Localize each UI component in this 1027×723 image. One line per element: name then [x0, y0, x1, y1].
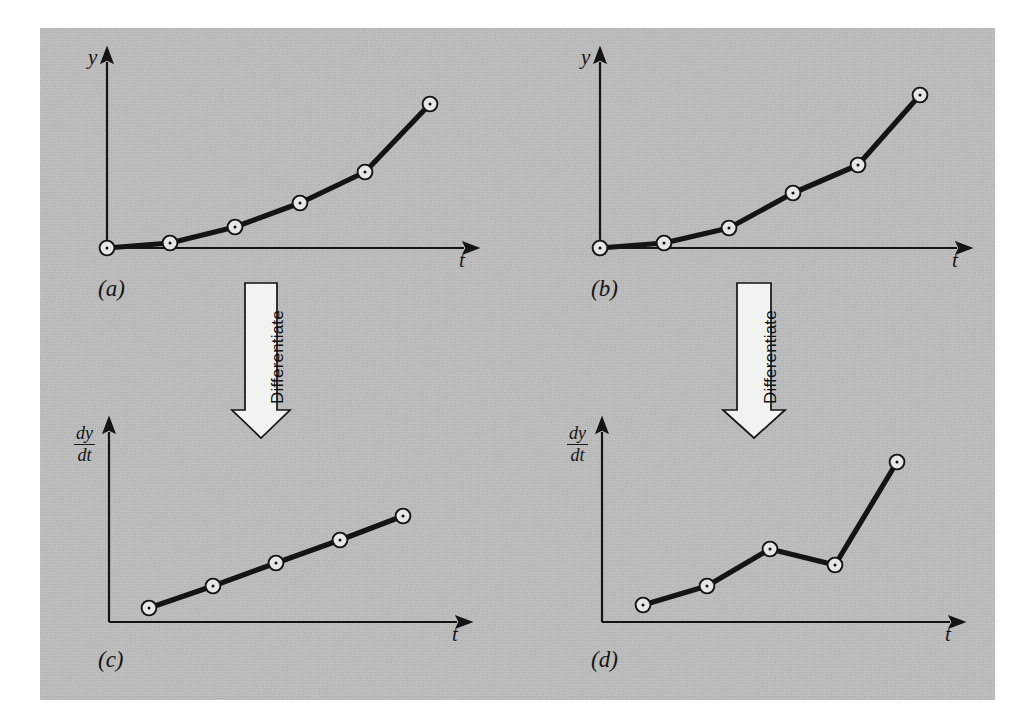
data-point-center-dot-icon — [599, 247, 602, 250]
panel-d-y-axis-numerator: dy — [567, 424, 588, 445]
panel-c-x-axis-label: t — [452, 624, 458, 645]
data-point-center-dot-icon — [642, 604, 645, 607]
panel-d-y-axis-label: dy dt — [567, 424, 588, 464]
panel-c-y-axis-numerator: dy — [74, 424, 95, 445]
data-point-center-dot-icon — [402, 515, 405, 518]
panel-a-x-axis-label: t — [459, 250, 465, 271]
panels-vector-content — [100, 62, 957, 622]
data-point-center-dot-icon — [275, 562, 278, 565]
panel-d-data-point — [890, 455, 905, 470]
panel-b-x-axis-label: t — [952, 250, 958, 271]
panel-a-data-point — [100, 241, 115, 256]
data-point-center-dot-icon — [896, 461, 899, 464]
panel-c-data-point — [142, 601, 157, 616]
differentiate-arrow-left-label: Differentiate — [268, 310, 288, 404]
panel-b-tag: (b) — [591, 277, 618, 300]
panel-a-data-point — [228, 220, 243, 235]
panel-b-data-point — [657, 236, 672, 251]
panel-c-data-point — [206, 579, 221, 594]
data-point-center-dot-icon — [234, 226, 237, 229]
data-point-center-dot-icon — [148, 607, 151, 610]
panel-b-data-point — [913, 88, 928, 103]
differentiate-arrow-right-label: Differentiate — [761, 310, 781, 404]
panel-d-x-axis-label: t — [945, 624, 951, 645]
panel-a-data-point — [163, 236, 178, 251]
panel-b-y-axis-label: y — [581, 47, 590, 68]
data-point-center-dot-icon — [339, 539, 342, 542]
panel-a-data-line — [107, 104, 430, 248]
data-point-center-dot-icon — [169, 242, 172, 245]
data-point-center-dot-icon — [663, 242, 666, 245]
panel-c-y-axis-label: dy dt — [74, 424, 95, 464]
panel-d-data-point — [828, 558, 843, 573]
panel-a-data-point — [293, 196, 308, 211]
panel-d-y-axis-denominator: dt — [567, 445, 588, 465]
panel-b-data-point — [786, 186, 801, 201]
data-point-center-dot-icon — [728, 227, 731, 230]
panel-d-data-point — [700, 579, 715, 594]
data-point-center-dot-icon — [834, 564, 837, 567]
data-point-center-dot-icon — [706, 585, 709, 588]
data-point-center-dot-icon — [364, 171, 367, 174]
panel-b-data-point — [851, 158, 866, 173]
panel-b-data-point — [722, 221, 737, 236]
panel-a-data-point — [358, 165, 373, 180]
data-point-center-dot-icon — [212, 585, 215, 588]
data-point-center-dot-icon — [792, 192, 795, 195]
panel-c-data-point — [269, 556, 284, 571]
panel-c-tag: (c) — [98, 648, 124, 671]
panel-c-data-point — [396, 509, 411, 524]
panel-c-y-axis-denominator: dt — [74, 445, 95, 465]
panel-d-data-line — [643, 462, 897, 605]
data-point-center-dot-icon — [429, 103, 432, 106]
panel-d-data-point — [763, 542, 778, 557]
panel-c-data-point — [333, 533, 348, 548]
panel-a-tag: (a) — [98, 277, 125, 300]
panel-a-data-point — [423, 97, 438, 112]
panel-d-data-point — [636, 598, 651, 613]
data-point-center-dot-icon — [769, 548, 772, 551]
data-point-center-dot-icon — [857, 164, 860, 167]
panel-b-data-point — [593, 241, 608, 256]
figure-root: y t (a) y t (b) dy dt t (c) dy dt t (d) … — [0, 0, 1027, 723]
figure-vector-layer — [0, 0, 1027, 723]
data-point-center-dot-icon — [299, 202, 302, 205]
panel-d-tag: (d) — [591, 648, 618, 671]
panel-a-y-axis-label: y — [88, 47, 97, 68]
data-point-center-dot-icon — [106, 247, 109, 250]
data-point-center-dot-icon — [919, 94, 922, 97]
panel-b-data-line — [600, 95, 920, 248]
